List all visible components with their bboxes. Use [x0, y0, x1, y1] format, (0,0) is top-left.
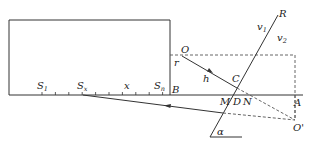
label-v1: v1	[257, 21, 267, 34]
optics-diagram: S1 Sx x Sn B r O h C R v1 v2 M D N A O' …	[0, 0, 313, 148]
screen-rectangle	[9, 20, 170, 95]
label-d: D	[232, 96, 241, 107]
label-v2: v2	[277, 32, 287, 45]
label-sx: Sx	[77, 80, 88, 93]
label-x: x	[124, 80, 130, 91]
label-o: O	[181, 44, 189, 55]
label-b: B	[171, 84, 179, 95]
label-o-prime: O'	[293, 122, 304, 133]
label-alpha: α	[217, 126, 224, 137]
label-c: C	[232, 73, 240, 84]
label-s1: S1	[37, 80, 48, 93]
label-a: A	[293, 97, 301, 108]
label-r-point: R	[278, 8, 287, 19]
dashed-mirror-oprime	[223, 113, 295, 120]
dashed-guide-top	[170, 55, 295, 120]
label-r: r	[174, 57, 180, 68]
label-sn: Sn	[154, 80, 165, 93]
reflected-ray	[83, 95, 223, 113]
label-n: N	[242, 96, 253, 107]
mirror-line	[210, 15, 278, 137]
label-m: M	[219, 96, 231, 107]
label-h: h	[203, 73, 209, 84]
